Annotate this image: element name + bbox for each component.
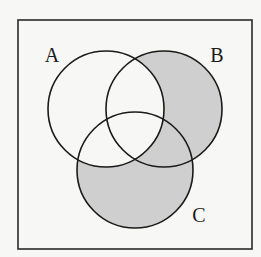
set-label-c: C	[192, 204, 205, 226]
set-label-b: B	[210, 44, 223, 66]
venn-diagram: A B C	[0, 0, 261, 257]
set-label-a: A	[45, 44, 60, 66]
